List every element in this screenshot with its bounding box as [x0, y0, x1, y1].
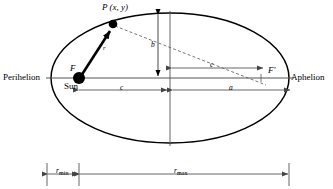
point-p-label: P (x, y): [102, 3, 128, 12]
focus-f-label: F: [70, 64, 76, 73]
focus-f-prime-label: F': [268, 66, 275, 75]
focal-c-lower-label: c: [120, 84, 123, 92]
aphelion-label: Aphelion: [291, 73, 325, 82]
dashed-p-to-focus-line: [115, 26, 266, 85]
orbit-diagram-figure: Perihelion Aphelion P (x, y) F Sun F' r …: [0, 0, 333, 189]
r-min-label: rmin: [56, 167, 69, 176]
radius-vector-line: [81, 31, 110, 76]
r-min-subscript: min: [59, 170, 69, 176]
orbit-diagram-canvas: [0, 0, 333, 189]
focus-f-prime-apostrophe: ': [274, 65, 276, 75]
r-max-label: rmax: [174, 167, 188, 176]
semi-major-a-label: a: [229, 84, 233, 92]
sun-label: Sun: [64, 82, 78, 91]
r-max-subscript: max: [177, 170, 188, 176]
radius-r-label: r: [103, 45, 106, 52]
focal-c-upper-label: c: [210, 61, 213, 69]
semi-minor-b-label: b: [151, 41, 155, 49]
point-p-dot: [109, 20, 118, 29]
perihelion-label: Perihelion: [3, 73, 40, 82]
